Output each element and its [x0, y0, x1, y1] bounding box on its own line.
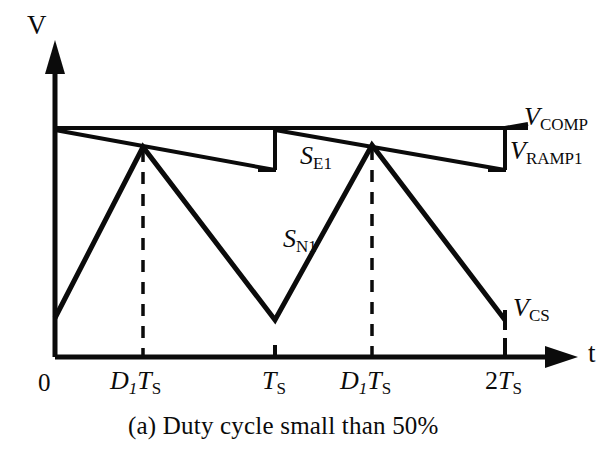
- tick-two-symbol: 2: [485, 366, 498, 395]
- y-axis-label: V: [27, 12, 47, 39]
- tick-t-symbol: T: [367, 366, 381, 395]
- tick-t-subscript: S: [152, 379, 161, 398]
- v-comp-subscript: COMP: [540, 115, 588, 134]
- s-n1-subscript: N1: [296, 237, 317, 256]
- tick-t-subscript: S: [276, 379, 285, 398]
- x-tick-label-d1ts-second: D1TS: [340, 368, 391, 394]
- v-cs-waveform: [55, 145, 505, 320]
- v-cs-symbol: V: [513, 293, 529, 322]
- s-e1-symbol: S: [300, 141, 313, 170]
- x-axis-label: t: [588, 340, 596, 367]
- x-tick-label-ts: TS: [262, 368, 286, 394]
- v-ramp1-subscript: RAMP1: [526, 149, 583, 168]
- tick-d-subscript: 1: [359, 379, 368, 398]
- y-axis-arrowhead: [45, 40, 65, 74]
- x-tick-label-2ts: 2TS: [485, 368, 522, 394]
- x-tick-label-d1ts-first: D1TS: [110, 368, 161, 394]
- v-comp-symbol: V: [524, 102, 540, 131]
- v-ramp1-symbol: V: [510, 136, 526, 165]
- x-axis-arrowhead: [545, 346, 578, 368]
- origin-label: 0: [38, 370, 51, 395]
- v-ramp1-label: VRAMP1: [510, 138, 583, 164]
- tick-d-symbol: D: [110, 366, 129, 395]
- s-n1-label: SN1: [283, 226, 317, 252]
- tick-t-symbol: T: [262, 366, 276, 395]
- v-cs-subscript: CS: [529, 306, 550, 325]
- s-e1-subscript: E1: [313, 154, 332, 173]
- tick-d-subscript: 1: [129, 379, 138, 398]
- tick-t-subscript: S: [382, 379, 391, 398]
- tick-d-symbol: D: [340, 366, 359, 395]
- v-cs-label: VCS: [513, 295, 550, 321]
- v-ramp1-segment-1: [55, 130, 275, 170]
- tick-t-subscript: S: [512, 379, 521, 398]
- v-comp-label: VCOMP: [524, 104, 588, 130]
- tick-t-symbol: T: [498, 366, 512, 395]
- tick-t-symbol: T: [137, 366, 151, 395]
- figure-caption: (a) Duty cycle small than 50%: [128, 412, 439, 440]
- s-e1-label: SE1: [300, 143, 332, 169]
- figure-container: V t 0 D1TS TS D1TS 2TS VCOMP VRAMP1 VCS …: [0, 0, 613, 461]
- s-n1-symbol: S: [283, 224, 296, 253]
